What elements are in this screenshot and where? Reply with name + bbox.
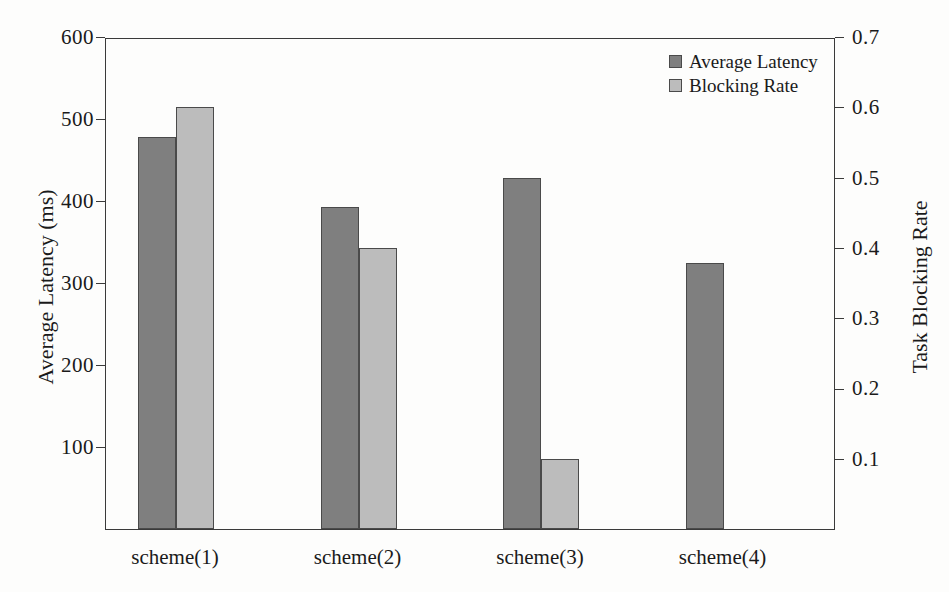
scan-bleed-artifact bbox=[0, 0, 949, 16]
right-tick-mark bbox=[835, 318, 844, 319]
legend-item: Blocking Rate bbox=[669, 74, 818, 96]
left-tick-label: 600 bbox=[61, 27, 94, 48]
chart-page: 100200300400500600 0.10.20.30.40.50.60.7… bbox=[0, 0, 949, 592]
right-tick-label: 0.3 bbox=[852, 308, 880, 329]
legend-item-label: Blocking Rate bbox=[689, 76, 798, 95]
right-tick-label: 0.7 bbox=[852, 27, 880, 48]
bar-blocking-rate bbox=[359, 248, 397, 529]
right-tick-label: 0.2 bbox=[852, 378, 880, 399]
x-axis-category-label: scheme(2) bbox=[268, 545, 448, 570]
legend-item-label: Average Latency bbox=[689, 52, 818, 71]
left-tick-label: 100 bbox=[61, 437, 94, 458]
x-axis-category-label: scheme(4) bbox=[633, 545, 813, 570]
right-tick-mark bbox=[835, 178, 844, 179]
left-tick-label: 300 bbox=[61, 273, 94, 294]
left-tick-mark bbox=[96, 365, 105, 366]
bar-average-latency bbox=[503, 178, 541, 529]
left-tick-mark bbox=[96, 447, 105, 448]
legend-swatch-icon bbox=[669, 55, 682, 68]
right-tick-mark bbox=[835, 389, 844, 390]
right-tick-mark bbox=[835, 107, 844, 108]
chart-legend: Average LatencyBlocking Rate bbox=[669, 50, 818, 98]
right-tick-mark bbox=[835, 459, 844, 460]
left-tick-label: 500 bbox=[61, 109, 94, 130]
x-axis-category-label: scheme(1) bbox=[85, 545, 265, 570]
x-axis-category-label: scheme(3) bbox=[450, 545, 630, 570]
right-axis-title: Task Blocking Rate bbox=[907, 137, 933, 437]
legend-swatch-icon bbox=[669, 79, 682, 92]
bar-average-latency bbox=[138, 137, 176, 529]
legend-item: Average Latency bbox=[669, 50, 818, 72]
left-tick-mark bbox=[96, 283, 105, 284]
bar-average-latency bbox=[321, 207, 359, 529]
left-tick-mark bbox=[96, 37, 105, 38]
right-tick-mark bbox=[835, 37, 844, 38]
right-tick-label: 0.4 bbox=[852, 238, 880, 259]
right-tick-label: 0.1 bbox=[852, 449, 880, 470]
right-tick-label: 0.6 bbox=[852, 97, 880, 118]
left-axis-title: Average Latency (ms) bbox=[33, 137, 59, 437]
bar-blocking-rate bbox=[176, 107, 214, 529]
bar-group-container bbox=[106, 39, 833, 529]
right-tick-label: 0.5 bbox=[852, 168, 880, 189]
left-tick-label: 400 bbox=[61, 191, 94, 212]
bar-average-latency bbox=[686, 263, 724, 530]
left-tick-label: 200 bbox=[61, 355, 94, 376]
left-tick-mark bbox=[96, 119, 105, 120]
bar-blocking-rate bbox=[541, 459, 579, 529]
left-tick-mark bbox=[96, 201, 105, 202]
right-tick-mark bbox=[835, 248, 844, 249]
